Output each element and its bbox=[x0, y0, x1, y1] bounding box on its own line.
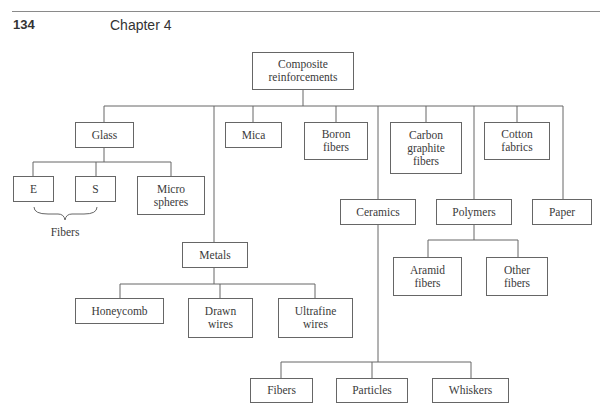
node-other-fibers: Other fibers bbox=[486, 257, 548, 296]
node-aramid-fibers: Aramid fibers bbox=[393, 257, 462, 296]
fibers-brace-label: Fibers bbox=[44, 226, 86, 238]
node-whiskers: Whiskers bbox=[432, 378, 509, 403]
node-honeycomb: Honeycomb bbox=[75, 298, 164, 324]
node-metals: Metals bbox=[182, 242, 248, 268]
node-drawn-wires: Drawn wires bbox=[188, 298, 253, 338]
node-glass: Glass bbox=[75, 122, 134, 148]
node-cotton-fabrics: Cotton fabrics bbox=[484, 122, 550, 160]
node-boron-fibers: Boron fibers bbox=[304, 122, 368, 160]
node-paper: Paper bbox=[532, 199, 592, 225]
node-mica: Mica bbox=[225, 122, 282, 148]
node-s-glass: S bbox=[75, 176, 116, 202]
node-carbon-graphite-fibers: Carbon graphite fibers bbox=[390, 122, 462, 174]
node-e-glass: E bbox=[13, 176, 54, 202]
node-ultrafine-wires: Ultrafine wires bbox=[278, 298, 353, 338]
node-polymers: Polymers bbox=[436, 199, 512, 225]
node-composite-reinforcements: Composite reinforcements bbox=[252, 52, 354, 90]
node-ceramic-fibers: Fibers bbox=[250, 378, 313, 403]
node-ceramics: Ceramics bbox=[340, 199, 416, 225]
node-particles: Particles bbox=[336, 378, 408, 403]
node-micro-spheres: Micro spheres bbox=[137, 176, 205, 215]
